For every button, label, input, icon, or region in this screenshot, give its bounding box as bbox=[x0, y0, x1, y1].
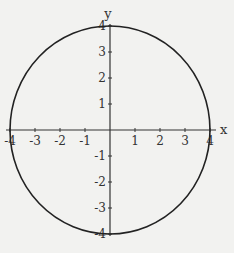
x-tick-label: 1 bbox=[131, 134, 139, 148]
y-tick-label: -1 bbox=[94, 149, 106, 163]
x-tick-label: -1 bbox=[79, 134, 91, 148]
x-tick-label: -2 bbox=[54, 134, 66, 148]
x-tick-label: -3 bbox=[29, 134, 41, 148]
x-tick-label: 2 bbox=[156, 134, 164, 148]
y-axis-label: y bbox=[103, 6, 112, 21]
y-tick-label: 3 bbox=[98, 45, 106, 59]
y-tick-label: 1 bbox=[98, 97, 106, 111]
x-axis-label: x bbox=[220, 122, 228, 137]
x-tick-label: 3 bbox=[181, 134, 189, 148]
y-tick-label: -2 bbox=[94, 175, 106, 189]
circle-plot: -4-3-2-11234-4-3-2-11234 x y bbox=[0, 0, 234, 253]
y-tick-label: -3 bbox=[94, 201, 106, 215]
y-tick-label: 2 bbox=[98, 71, 106, 85]
